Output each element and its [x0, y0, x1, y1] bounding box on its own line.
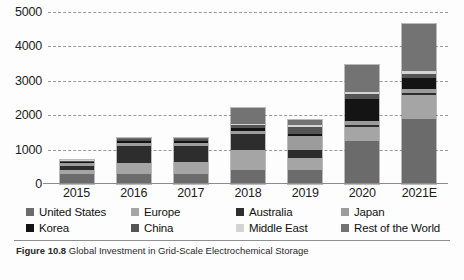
legend-swatch-icon [131, 208, 139, 216]
legend-item[interactable]: Japan [341, 206, 446, 218]
legend-swatch-icon [236, 224, 244, 232]
legend-label: China [144, 222, 173, 234]
bar-segment[interactable] [117, 146, 151, 163]
bar-slot [334, 12, 391, 184]
bar-segment[interactable] [402, 119, 436, 184]
x-axis-tick-label: 2017 [162, 186, 219, 200]
x-axis-tick-label: 2021E [391, 186, 448, 200]
legend-label: Europe [144, 206, 180, 218]
plot-frame: 010002000300040005000 [48, 12, 448, 184]
bar-segment[interactable] [402, 95, 436, 119]
legend-swatch-icon [341, 208, 349, 216]
figure-container: 010002000300040005000 201520162017201820… [0, 0, 464, 280]
legend-label: Japan [354, 206, 385, 218]
bar-segment[interactable] [402, 78, 436, 89]
x-axis-tick-label: 2020 [334, 186, 391, 200]
bar-segment[interactable] [345, 65, 379, 92]
legend-item[interactable]: Korea [26, 222, 131, 234]
stacked-bar[interactable] [288, 120, 322, 184]
stacked-bar[interactable] [231, 108, 265, 184]
x-axis-labels: 2015201620172018201920202021E [48, 186, 448, 200]
bar-slot [219, 12, 276, 184]
bar-segment[interactable] [174, 162, 208, 174]
legend-label: United States [39, 206, 106, 218]
legend-swatch-icon [131, 224, 139, 232]
legend-swatch-icon [341, 224, 349, 232]
bar-slot [48, 12, 105, 184]
x-axis-tick-label: 2015 [48, 186, 105, 200]
bar-segment[interactable] [288, 127, 322, 134]
legend-swatch-icon [26, 224, 34, 232]
caption-divider [14, 240, 450, 241]
bar-segment[interactable] [345, 141, 379, 184]
legend-label: Korea [39, 222, 69, 234]
bar-slot [391, 12, 448, 184]
bar-segment[interactable] [288, 136, 322, 150]
x-axis-line [48, 183, 448, 184]
legend-item[interactable]: China [131, 222, 236, 234]
legend-label: Middle East [249, 222, 307, 234]
legend-item[interactable]: United States [26, 206, 131, 218]
x-axis-tick-label: 2016 [105, 186, 162, 200]
bar-segment[interactable] [231, 134, 265, 149]
legend-item[interactable]: Rest of the World [341, 222, 446, 234]
x-axis-tick-label: 2018 [219, 186, 276, 200]
y-axis-tick-label: 1000 [15, 143, 42, 157]
y-axis-tick-label: 4000 [15, 39, 42, 53]
legend-item[interactable]: Middle East [236, 222, 341, 234]
bar-segment[interactable] [231, 108, 265, 123]
bars-group [48, 12, 448, 184]
bar-segment[interactable] [402, 24, 436, 71]
bar-segment[interactable] [174, 146, 208, 161]
legend-swatch-icon [26, 208, 34, 216]
caption-text: Global Investment in Grid-Scale Electroc… [69, 245, 309, 256]
bar-segment[interactable] [231, 170, 265, 184]
y-axis-tick-label: 2000 [15, 108, 42, 122]
chart-legend: United StatesEuropeAustraliaJapanKoreaCh… [26, 206, 446, 234]
legend-item[interactable]: Europe [131, 206, 236, 218]
y-axis-tick-label: 3000 [15, 74, 42, 88]
legend-label: Rest of the World [354, 222, 440, 234]
bar-segment[interactable] [288, 170, 322, 184]
caption-number: Figure 10.8 [16, 245, 66, 256]
stacked-bar[interactable] [345, 65, 379, 184]
bar-slot [105, 12, 162, 184]
bar-segment[interactable] [288, 150, 322, 159]
bar-segment[interactable] [117, 163, 151, 173]
bar-slot [162, 12, 219, 184]
stacked-bar[interactable] [402, 24, 436, 184]
bar-segment[interactable] [345, 127, 379, 141]
y-axis-tick-label: 0 [35, 177, 42, 191]
legend-label: Australia [249, 206, 292, 218]
stacked-bar[interactable] [60, 160, 94, 184]
y-axis-tick-label: 5000 [15, 5, 42, 19]
figure-caption: Figure 10.8 Global Investment in Grid-Sc… [16, 245, 464, 256]
legend-swatch-icon [236, 208, 244, 216]
legend-item[interactable]: Australia [236, 206, 341, 218]
bar-slot [277, 12, 334, 184]
x-axis-tick-label: 2019 [277, 186, 334, 200]
stacked-bar[interactable] [174, 138, 208, 184]
bar-segment[interactable] [288, 158, 322, 170]
stacked-bar[interactable] [117, 138, 151, 184]
bar-segment[interactable] [345, 99, 379, 121]
chart-area: 010002000300040005000 201520162017201820… [0, 0, 464, 203]
bar-segment[interactable] [231, 150, 265, 171]
